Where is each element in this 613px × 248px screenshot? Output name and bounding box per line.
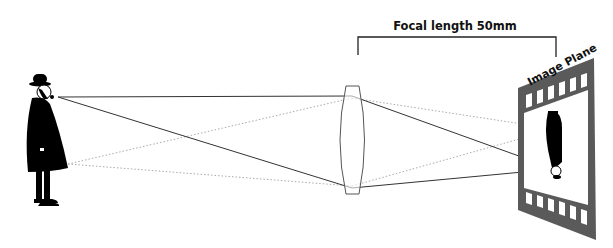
person-silhouette	[27, 74, 68, 206]
camera-optics-diagram: Focal length 50mm	[0, 0, 613, 248]
solid-rays	[58, 96, 555, 188]
focal-length-bracket	[358, 37, 556, 57]
diagram-svg: Focal length 50mm	[0, 0, 613, 248]
convex-lens-icon	[340, 86, 365, 194]
focal-length-label: Focal length 50mm	[393, 19, 517, 33]
dotted-rays	[68, 98, 555, 186]
